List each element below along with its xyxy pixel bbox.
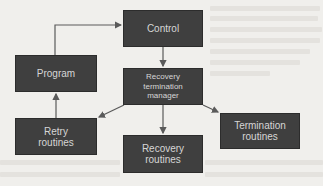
node-control: Control [123,10,203,47]
node-program: Program [15,55,97,92]
node-control-label: Control [147,23,179,34]
node-termination-label: Termination routines [229,120,291,142]
node-program-label: Program [37,68,75,79]
arrow-program-to-control [55,25,121,55]
node-retry-routines: Retry routines [15,118,97,155]
node-termination-routines: Termination routines [220,113,300,149]
node-recovery-label: Recovery routines [138,143,188,165]
arrow-manager-to-termination [203,105,218,112]
node-retry-label: Retry routines [31,126,81,148]
node-manager-label: Recovery termination manager [135,72,191,101]
node-recovery-termination-manager: Recovery termination manager [123,68,203,105]
node-recovery-routines: Recovery routines [123,135,203,173]
arrow-manager-to-retry [99,105,124,117]
